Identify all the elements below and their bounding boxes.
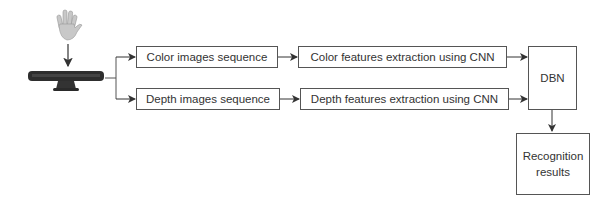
color-features-extraction-box: Color features extraction using CNN [298, 46, 507, 68]
dbn-box: DBN [528, 46, 577, 110]
kinect-sensor-icon [28, 70, 104, 92]
recognition-results-box: Recognition results [516, 133, 590, 195]
hand-icon [50, 8, 86, 44]
recognition-results-line2: results [536, 164, 570, 180]
color-images-sequence-box: Color images sequence [136, 46, 278, 68]
depth-images-sequence-box: Depth images sequence [136, 88, 280, 110]
recognition-results-line1: Recognition [523, 148, 584, 164]
depth-features-extraction-box: Depth features extraction using CNN [300, 88, 509, 110]
